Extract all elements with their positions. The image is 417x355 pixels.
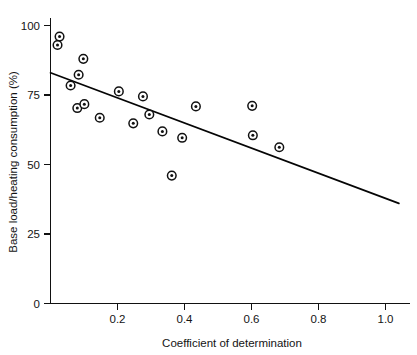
scatter-point-dot xyxy=(278,146,281,149)
x-tick-labels: 0.2 0.4 0.6 0.8 1.0 xyxy=(110,313,394,325)
scatter-point xyxy=(192,102,201,111)
scatter-point-dot xyxy=(76,107,79,110)
scatter-point xyxy=(80,100,89,109)
scatter-point-dot xyxy=(181,136,184,139)
scatter-point xyxy=(53,41,62,50)
trend-line xyxy=(51,73,399,204)
x-tick-label-0.4: 0.4 xyxy=(177,313,194,325)
scatter-point-dot xyxy=(148,113,151,116)
scatter-point xyxy=(248,102,257,111)
scatter-point-dot xyxy=(69,84,72,87)
x-tick-marks xyxy=(118,304,386,311)
scatter-point-dot xyxy=(77,73,80,76)
scatter-point-dot xyxy=(58,35,61,38)
axes-group xyxy=(51,18,411,304)
x-tick-label-0.6: 0.6 xyxy=(244,313,260,325)
scatter-points-layer xyxy=(53,32,283,180)
scatter-point-dot xyxy=(141,95,144,98)
y-tick-labels: 100 75 50 25 0 xyxy=(21,20,40,310)
x-tick-label-1.0: 1.0 xyxy=(378,313,394,325)
x-tick-label-0.8: 0.8 xyxy=(311,313,327,325)
scatter-point xyxy=(145,110,154,119)
scatter-point-dot xyxy=(56,43,59,46)
scatter-point xyxy=(139,92,148,101)
scatter-point xyxy=(115,87,124,96)
scatter-point xyxy=(74,70,83,79)
scatter-point-dot xyxy=(251,104,254,107)
scatter-point-dot xyxy=(170,174,173,177)
scatter-point xyxy=(178,134,187,143)
scatter-point xyxy=(249,131,258,140)
y-tick-label-75: 75 xyxy=(27,89,40,101)
scatter-point xyxy=(95,114,104,123)
scatter-point-dot xyxy=(117,90,120,93)
scatter-point-dot xyxy=(251,134,254,137)
scatter-plot-figure: 100 75 50 25 0 0.2 0.4 0.6 0.8 1.0 Coeff… xyxy=(0,0,417,355)
scatter-point xyxy=(275,143,284,152)
y-tick-label-100: 100 xyxy=(21,20,40,32)
x-axis-title: Coefficient of determination xyxy=(162,337,302,349)
scatter-point xyxy=(66,81,75,90)
scatter-point xyxy=(79,55,88,64)
y-tick-label-25: 25 xyxy=(27,228,40,240)
y-axis-title: Base load/heating consumption (%) xyxy=(7,71,19,253)
scatter-point-dot xyxy=(194,105,197,108)
scatter-point-dot xyxy=(83,103,86,106)
scatter-point-dot xyxy=(98,116,101,119)
scatter-point xyxy=(55,32,64,41)
scatter-point xyxy=(167,171,176,180)
scatter-point xyxy=(158,127,167,136)
scatter-point xyxy=(129,119,138,128)
x-tick-label-0.2: 0.2 xyxy=(110,313,126,325)
scatter-point-dot xyxy=(161,130,164,133)
scatter-point-dot xyxy=(132,122,135,125)
y-tick-label-50: 50 xyxy=(27,159,40,171)
plot-canvas: 100 75 50 25 0 0.2 0.4 0.6 0.8 1.0 Coeff… xyxy=(0,0,417,355)
scatter-point-dot xyxy=(82,57,85,60)
y-tick-label-0: 0 xyxy=(34,298,40,310)
y-tick-marks xyxy=(44,26,51,304)
